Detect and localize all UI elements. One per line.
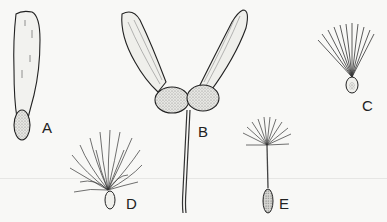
seed-b (122, 10, 248, 213)
seed-illustration (0, 0, 387, 222)
label-c: C (362, 97, 373, 114)
label-d: D (126, 195, 137, 212)
seed-a (14, 11, 40, 140)
label-a: A (42, 119, 52, 136)
label-b: B (198, 123, 208, 140)
seed-c (318, 23, 374, 93)
label-e: E (279, 195, 289, 212)
